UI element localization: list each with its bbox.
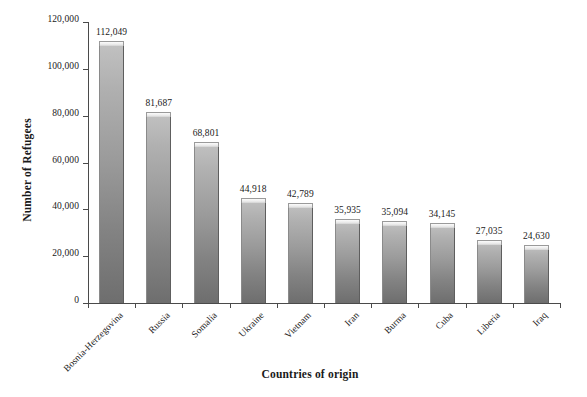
- bar-top-cap: [241, 198, 266, 203]
- x-axis-category-label-text: Iran: [342, 310, 360, 328]
- bar-value-label: 42,789: [287, 189, 314, 199]
- y-axis-tick: 120,000: [83, 22, 88, 23]
- y-axis-line: [88, 22, 89, 304]
- bar-value-label: 24,630: [523, 231, 550, 241]
- bar-chart: Number of Refugees 020,00040,00060,00080…: [0, 0, 587, 397]
- y-axis-tick: 60,000: [83, 163, 88, 164]
- x-axis-category-label-text: Russia: [146, 310, 171, 335]
- y-axis-tick-label: 0: [74, 295, 79, 305]
- bar-top-cap: [335, 219, 360, 224]
- bar-top-cap: [430, 223, 455, 228]
- bar-top-cap: [194, 142, 219, 147]
- bar-top-cap: [146, 112, 171, 117]
- y-axis-tick: 100,000: [83, 69, 88, 70]
- y-axis-tick: 40,000: [83, 209, 88, 210]
- x-axis-category-label-text: Cuba: [434, 310, 456, 332]
- bar-value-label: 44,918: [240, 184, 267, 194]
- x-axis-tick: [88, 303, 89, 308]
- y-axis-tick-label: 120,000: [47, 14, 79, 24]
- bar-value-label: 112,049: [96, 27, 127, 37]
- plot-area: 020,00040,00060,00080,000100,000120,000 …: [88, 22, 560, 303]
- x-axis-category-label-text: Somalia: [189, 310, 219, 340]
- y-axis-tick-label: 60,000: [52, 155, 79, 165]
- bar: 35,935: [335, 219, 360, 303]
- bar-value-label: 35,935: [334, 205, 361, 215]
- y-axis-title: Number of Refugees: [18, 40, 36, 300]
- bar: 34,145: [430, 223, 455, 303]
- x-axis-category-label-text: Liberia: [475, 310, 502, 337]
- bar-top-cap: [99, 41, 124, 46]
- bar-value-label: 35,094: [381, 207, 408, 217]
- x-axis-category-label-text: Burma: [382, 310, 408, 336]
- x-axis-category-label-text: Vietnam: [283, 310, 313, 340]
- bar: 35,094: [382, 221, 407, 303]
- y-axis-tick: 80,000: [83, 116, 88, 117]
- bar-top-cap: [382, 221, 407, 226]
- bar: 42,789: [288, 203, 313, 303]
- x-axis-category-label-text: Bosnia-Herzegovina: [61, 310, 125, 374]
- bar: 68,801: [194, 142, 219, 303]
- y-axis-tick-label: 100,000: [47, 61, 79, 71]
- x-axis-category-label-text: Iraq: [531, 310, 549, 328]
- y-axis-tick-label: 80,000: [52, 108, 79, 118]
- bar-top-cap: [288, 203, 313, 208]
- bar: 112,049: [99, 41, 124, 303]
- bar: 24,630: [524, 245, 549, 303]
- bar: 27,035: [477, 240, 502, 303]
- bar-value-label: 81,687: [145, 98, 172, 108]
- y-axis-tick-label: 40,000: [52, 201, 79, 211]
- y-axis-tick-label: 20,000: [52, 248, 79, 258]
- x-axis-title: Countries of origin: [170, 368, 450, 380]
- bar-top-cap: [477, 240, 502, 245]
- bar-value-label: 68,801: [193, 128, 220, 138]
- bar-value-label: 27,035: [476, 226, 503, 236]
- bar-top-cap: [524, 245, 549, 250]
- y-axis-tick: 20,000: [83, 256, 88, 257]
- bar: 44,918: [241, 198, 266, 303]
- x-axis-category-label-text: Ukraine: [237, 310, 266, 339]
- bar-value-label: 34,145: [429, 209, 456, 219]
